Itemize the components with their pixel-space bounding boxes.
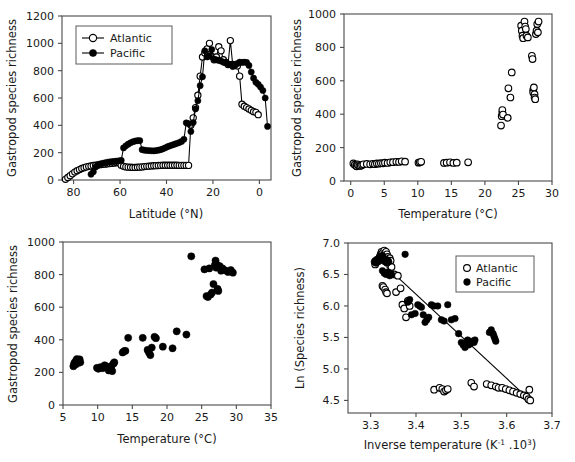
data-point (508, 69, 515, 76)
x-tick-label: 30 (545, 187, 559, 200)
figure-container: 020040060080010001200 806040200 Gastropo… (0, 0, 575, 462)
y-tick-label: 5.5 (323, 331, 341, 344)
x-tick-label: 10 (411, 187, 425, 200)
panel-top-right-svg: 02004006008001000 051015202530 Gastropod… (288, 0, 575, 231)
panel-top-left: 020040060080010001200 806040200 Gastropo… (0, 0, 290, 231)
data-point (209, 46, 215, 52)
y-axis-ticks-tl: 020040060080010001200 (26, 10, 62, 187)
panel-bottom-right: 4.55.05.56.06.57.0 3.33.43.53.63.7 Ln (S… (288, 230, 575, 462)
x-tick-label: 3.7 (543, 419, 561, 432)
data-point (406, 296, 413, 303)
data-point (531, 84, 538, 91)
x-tick-label: 25 (195, 411, 209, 424)
data-point (199, 74, 205, 80)
y-tick-label: 1000 (26, 37, 54, 50)
x-tick-label: 10 (91, 411, 105, 424)
x-tick-label: 20 (160, 411, 174, 424)
y-tick-label: 1000 (308, 8, 336, 21)
data-point (505, 85, 512, 92)
data-point (453, 159, 460, 166)
x-tick-label: 80 (67, 186, 81, 199)
data-point (260, 87, 266, 93)
y-tick-label: 600 (315, 75, 336, 88)
x-axis-ticks-bl: 5101520253035 (60, 405, 279, 424)
y-tick-label: 800 (34, 269, 55, 282)
panel-bottom-left-svg: 02004006008001000 5101520253035 Gastropo… (0, 230, 290, 462)
x-axis-ticks-br: 3.33.43.53.63.7 (362, 413, 561, 432)
x-tick-label: 30 (229, 411, 243, 424)
data-point (535, 29, 542, 36)
data-point (425, 314, 432, 321)
data-point (248, 69, 254, 75)
y-tick-label: 7.0 (323, 237, 341, 250)
data-point (109, 368, 116, 375)
data-point (434, 303, 441, 310)
data-point (418, 304, 425, 311)
series-group-bl (70, 253, 237, 375)
x-axis-title-br: Inverse temperature (K-1 .103) (364, 438, 537, 452)
series-pacific (70, 253, 237, 375)
y-tick-label: 0 (47, 174, 54, 187)
legend-label-atlantic-br: Atlantic (476, 262, 518, 275)
data-point (218, 48, 224, 54)
data-point (523, 26, 530, 33)
data-point (190, 120, 196, 126)
y-tick-label: 400 (33, 119, 54, 132)
data-point (148, 344, 155, 351)
data-point (527, 397, 534, 404)
x-tick-label: 15 (444, 187, 458, 200)
panel-bottom-left: 02004006008001000 5101520253035 Gastropo… (0, 230, 290, 462)
y-axis-title-tl: Gastropod species richness (5, 19, 19, 177)
x-tick-label: 15 (125, 411, 139, 424)
x-tick-label: 0 (347, 187, 354, 200)
data-point (388, 271, 395, 278)
data-point (532, 96, 539, 103)
data-point (227, 38, 233, 44)
y-tick-label: 200 (34, 366, 55, 379)
data-point (192, 106, 198, 112)
data-point (498, 122, 505, 129)
y-axis-title-bl: Gastropod species richness (6, 245, 20, 403)
y-tick-label: 1000 (27, 236, 55, 249)
data-point (264, 123, 270, 129)
data-point (197, 83, 203, 89)
x-tick-label: 25 (511, 187, 525, 200)
data-point (402, 158, 409, 165)
legend-marker-pacific-tl (89, 49, 96, 56)
series-group-tr (350, 18, 542, 169)
x-tick-label: 3.6 (498, 419, 516, 432)
data-point (111, 359, 118, 366)
data-point (139, 334, 146, 341)
data-point (181, 136, 187, 142)
legend-marker-pacific-br (464, 279, 471, 286)
y-axis-ticks-tr: 02004006008001000 (308, 8, 344, 188)
x-axis-title-bl: Temperature (°C) (116, 432, 216, 446)
y-tick-label: 5.0 (323, 363, 341, 376)
data-point (122, 347, 129, 354)
data-point (159, 343, 166, 350)
x-axis-title-br-tail: ) (532, 438, 537, 452)
data-point (492, 338, 499, 345)
panel-top-left-svg: 020040060080010001200 806040200 Gastropo… (0, 0, 290, 231)
data-point (529, 56, 536, 63)
data-point (504, 115, 511, 122)
data-point (173, 328, 180, 335)
data-point (472, 337, 479, 344)
legend-marker-atlantic-br (464, 265, 471, 272)
panel-bottom-right-svg: 4.55.05.56.06.57.0 3.33.43.53.63.7 Ln (S… (288, 230, 575, 462)
legend-br: Atlantic Pacific (456, 256, 534, 292)
series-pacific (88, 46, 271, 177)
data-point (188, 128, 194, 134)
y-axis-title-br: Ln (Species richness) (293, 267, 307, 389)
x-tick-label: 35 (264, 411, 278, 424)
data-point (202, 48, 208, 54)
y-tick-label: 600 (34, 301, 55, 314)
data-point (169, 345, 176, 352)
data-point (188, 253, 195, 260)
y-tick-label: 6.0 (323, 300, 341, 313)
y-tick-label: 200 (33, 147, 54, 160)
data-point (507, 94, 514, 101)
y-tick-label: 0 (48, 399, 55, 412)
x-axis-title-br-base: Inverse temperature (K (364, 438, 498, 452)
data-point (402, 251, 409, 258)
